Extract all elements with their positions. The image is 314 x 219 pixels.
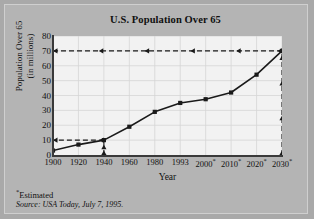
plot-svg xyxy=(53,36,282,155)
footnote-estimated-text: Estimated xyxy=(19,190,53,200)
horizontal-gridlines xyxy=(53,36,282,140)
y-axis-line xyxy=(52,35,54,156)
source-date: , July 7, 1995. xyxy=(78,200,123,209)
data-point xyxy=(280,49,282,53)
x-axis-label: Year xyxy=(53,172,282,182)
x-tick-label: 2030* xyxy=(272,157,292,169)
arrowhead xyxy=(99,48,104,53)
chart-title: U.S. Population Over 65 xyxy=(53,14,278,25)
annotation-guides xyxy=(53,48,282,155)
source-publication: USA Today xyxy=(43,200,78,209)
y-tick-label: 10 xyxy=(7,135,51,145)
y-tick-label: 20 xyxy=(7,120,51,130)
y-axis-label: Population Over 65 (in millions) xyxy=(14,0,36,116)
x-tick-label: 1960 xyxy=(121,157,138,167)
plot-area xyxy=(53,36,282,155)
x-tick-label: 2010* xyxy=(221,157,241,169)
data-point xyxy=(153,110,157,114)
y-axis-label-line1: Population Over 65 xyxy=(14,0,25,116)
source-prefix: Source: xyxy=(16,200,41,209)
data-point xyxy=(204,97,208,101)
data-point xyxy=(76,142,80,146)
footnote-estimated: *Estimated xyxy=(16,188,53,200)
x-tick-label: 1980 xyxy=(146,157,163,167)
arrowhead xyxy=(101,145,106,150)
x-axis-ticks: 1900192019401960198019932000*2010*2020*2… xyxy=(5,157,309,171)
footnote-source: Source: USA Today, July 7, 1995. xyxy=(16,200,123,209)
x-tick-label: 1993 xyxy=(172,157,189,167)
arrowhead xyxy=(145,48,150,53)
figure-panel: U.S. Population Over 65 0102030405060708… xyxy=(4,4,308,214)
x-tick-label: 2020* xyxy=(246,157,266,169)
x-tick-estimated-marker: * xyxy=(213,157,216,164)
x-tick-label: 2000* xyxy=(196,157,216,169)
y-axis-label-line2: (in millions) xyxy=(25,0,36,116)
x-tick-label: 1900 xyxy=(45,157,62,167)
arrowhead xyxy=(236,48,241,53)
x-tick-label: 1940 xyxy=(95,157,112,167)
data-point xyxy=(229,90,233,94)
x-tick-estimated-marker: * xyxy=(289,157,292,164)
data-point xyxy=(178,101,182,105)
data-point xyxy=(102,138,106,142)
x-tick-label: 1920 xyxy=(70,157,87,167)
arrowhead xyxy=(53,48,58,53)
data-point xyxy=(254,73,258,77)
series-markers xyxy=(53,49,282,153)
x-tick-estimated-marker: * xyxy=(238,157,241,164)
x-tick-estimated-marker: * xyxy=(263,157,266,164)
arrowhead xyxy=(190,48,195,53)
data-point xyxy=(127,125,131,129)
arrowhead xyxy=(53,138,58,143)
